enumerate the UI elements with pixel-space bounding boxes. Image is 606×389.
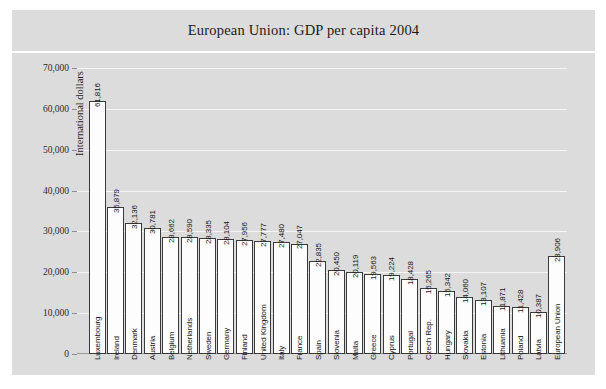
y-axis-tick-mark	[72, 354, 77, 355]
category-label: Slovakia	[461, 331, 470, 360]
bar-value-label: 27,047	[295, 226, 304, 250]
y-axis-tick-label: 40,000	[17, 186, 69, 196]
chart-title-band: European Union: GDP per capita 2004	[12, 10, 595, 53]
bar-value-label: 10,387	[534, 294, 543, 318]
category-label: United Kingdom	[259, 304, 268, 360]
category-label: Czech Rep.	[424, 319, 433, 360]
bar-value-label: 15,342	[443, 273, 452, 297]
category-label: European Union	[553, 304, 562, 360]
category-label: Latvia	[534, 339, 543, 360]
category-label: Luxembourg	[93, 317, 102, 360]
bar-value-label: 28,662	[167, 219, 176, 243]
bar	[107, 207, 124, 354]
y-axis-tick-label: 0	[17, 349, 69, 359]
category-label: Poland	[516, 336, 525, 360]
bar-value-label: 28,104	[222, 221, 231, 245]
bar-value-label: 14,060	[461, 279, 470, 303]
gridline	[77, 150, 567, 151]
page-title: European Union: GDP per capita 2004	[12, 22, 595, 39]
category-label: France	[295, 336, 304, 360]
y-axis-tick-label: 30,000	[17, 226, 69, 236]
y-axis-tick-label: 50,000	[17, 145, 69, 155]
bar-value-label: 32,136	[130, 205, 139, 229]
bar-value-label: 27,480	[277, 224, 286, 248]
y-axis-title: International dollars	[74, 29, 85, 199]
bar-value-label: 23,906	[553, 238, 562, 262]
bar-value-label: 11,871	[498, 288, 507, 311]
category-label: Hungary	[443, 330, 452, 360]
category-label: Slovenia	[332, 330, 341, 360]
bar-value-label: 20,119	[351, 255, 360, 278]
bar-value-label: 30,781	[148, 210, 157, 234]
gridline	[77, 68, 567, 69]
bar-value-label: 27,777	[259, 223, 268, 247]
bar-value-label: 61,816	[93, 84, 102, 108]
category-label: Germany	[222, 328, 231, 360]
bar-value-label: 16,265	[424, 270, 433, 294]
bar-value-label: 35,879	[112, 190, 121, 214]
bar	[273, 242, 290, 354]
y-axis-tick-label: 60,000	[17, 104, 69, 114]
y-axis-tick-label: 20,000	[17, 267, 69, 277]
bar-value-label: 20,450	[332, 253, 341, 277]
bar-value-label: 18,428	[406, 261, 415, 285]
category-label: Cyprus	[387, 335, 396, 360]
category-label: Portugal	[406, 331, 415, 360]
bar-value-label: 19,224	[387, 258, 396, 282]
bar-value-label: 11,428	[516, 290, 525, 313]
category-label: Sweden	[204, 332, 213, 360]
category-label: Italy	[277, 346, 286, 360]
bar-value-label: 19,563	[369, 256, 378, 280]
category-label: Malta	[351, 341, 360, 360]
y-axis-tick-mark	[72, 313, 77, 314]
bar-value-label: 28,590	[185, 219, 194, 243]
y-axis-tick-label: 70,000	[17, 63, 69, 73]
category-label: Estonia	[479, 334, 488, 360]
category-label: Lithuania	[498, 328, 507, 360]
gridline	[77, 191, 567, 192]
category-label: Belgium	[167, 332, 176, 360]
plot-area: 61,816Luxembourg35,879Ireland32,136Denma…	[77, 68, 567, 354]
y-axis-tick-mark	[72, 231, 77, 232]
category-label: Netherlands	[185, 318, 194, 360]
category-label: Denmark	[130, 328, 139, 360]
category-label: Finland	[240, 334, 249, 360]
bar-value-label: 27,956	[240, 222, 249, 246]
category-label: Greece	[369, 334, 378, 360]
y-axis-tick-mark	[72, 272, 77, 273]
bar-value-label: 28,335	[204, 220, 213, 244]
gridline	[77, 109, 567, 110]
bar-value-label: 22,835	[314, 243, 323, 267]
bar-value-label: 13,107	[479, 283, 488, 307]
category-label: Spain	[314, 340, 323, 360]
y-axis-tick-label: 10,000	[17, 308, 69, 318]
chart-figure: European Union: GDP per capita 2004 61,8…	[0, 0, 606, 389]
category-label: Ireland	[112, 336, 121, 360]
category-label: Austria	[148, 336, 157, 360]
